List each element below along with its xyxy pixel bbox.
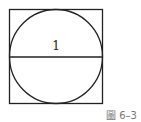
figure-diagram: 1 (0, 0, 141, 122)
diameter-label: 1 (52, 39, 60, 53)
figure-caption: 圖 6–3 (106, 107, 137, 122)
